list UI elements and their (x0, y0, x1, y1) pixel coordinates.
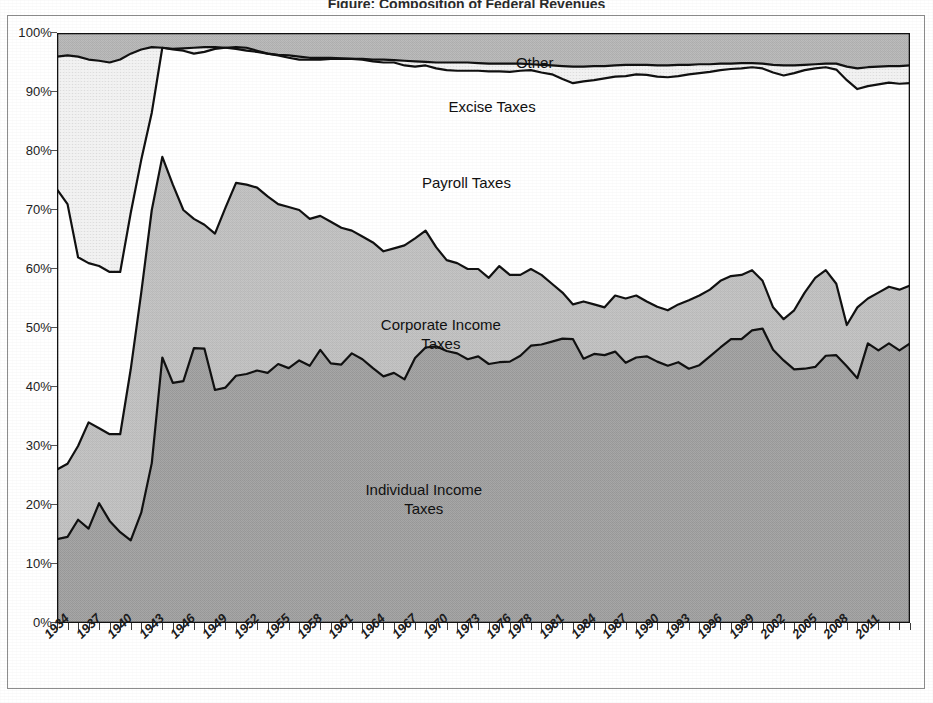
series-label-excise-taxes: Excise Taxes (412, 97, 572, 116)
y-tick-label: 10% (0, 556, 52, 571)
y-tick-mark (51, 268, 57, 269)
x-axis-labels: 1934193719401943194619491952195519581961… (57, 631, 933, 693)
y-tick-label: 60% (0, 261, 52, 276)
y-tick-label: 70% (0, 202, 52, 217)
y-tick-mark (51, 445, 57, 446)
y-tick-label: 20% (0, 497, 52, 512)
series-label-payroll-taxes: Payroll Taxes (386, 173, 546, 192)
y-tick-mark (51, 327, 57, 328)
x-tick-mark (899, 623, 900, 630)
y-tick-label: 80% (0, 143, 52, 158)
y-tick-mark (51, 32, 57, 33)
y-axis: 0%10%20%30%40%50%60%70%80%90%100% (0, 33, 52, 623)
y-tick-label: 100% (0, 25, 52, 40)
x-tick-mark (910, 623, 911, 630)
series-label-other: Other (455, 53, 615, 72)
y-tick-label: 40% (0, 379, 52, 394)
y-tick-mark (51, 563, 57, 564)
y-tick-label: 90% (0, 84, 52, 99)
y-tick-mark (51, 150, 57, 151)
y-tick-mark (51, 209, 57, 210)
series-label-individual-income-taxes: Individual Income Taxes (344, 480, 504, 518)
series-label-corporate-income-taxes: Corporate Income Taxes (361, 315, 521, 353)
y-tick-mark (51, 386, 57, 387)
x-tick-mark (889, 623, 890, 630)
y-tick-mark (51, 91, 57, 92)
y-tick-mark (51, 504, 57, 505)
y-tick-label: 50% (0, 320, 52, 335)
chart-title: Figure: Composition of Federal Revenues (0, 0, 933, 8)
y-tick-label: 30% (0, 438, 52, 453)
